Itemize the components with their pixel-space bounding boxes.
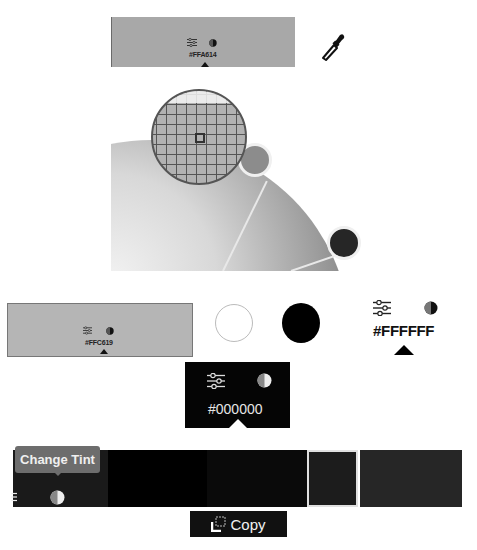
top-swatch-caret-icon xyxy=(201,62,209,67)
top-color-swatch[interactable]: #FFA614 xyxy=(111,17,295,67)
contrast-icon[interactable] xyxy=(50,490,65,505)
popover-notch xyxy=(229,419,247,428)
sliders-icon[interactable] xyxy=(11,492,17,502)
sliders-icon[interactable] xyxy=(83,326,92,335)
tint-swatch[interactable] xyxy=(207,450,307,507)
top-swatch-hex: #FFA614 xyxy=(189,51,216,58)
loupe-center-pixel xyxy=(195,133,205,143)
eyedropper-icon[interactable] xyxy=(320,32,346,62)
tint-swatch[interactable] xyxy=(108,450,208,507)
lower-swatch-caret-icon xyxy=(100,349,108,354)
lower-color-swatch[interactable]: #FFC619 xyxy=(7,303,193,357)
copy-button-label: Copy xyxy=(230,516,265,533)
text-color-hex: #FFFFFF xyxy=(373,322,434,339)
sliders-icon[interactable] xyxy=(373,300,391,316)
lower-swatch-hex: #FFC619 xyxy=(85,339,113,346)
contrast-option-white[interactable] xyxy=(215,304,253,342)
contrast-icon[interactable] xyxy=(209,39,217,47)
sliders-icon[interactable] xyxy=(207,373,225,389)
black-color-popover[interactable]: #000000 xyxy=(185,362,290,428)
contrast-option-black[interactable] xyxy=(282,303,320,343)
text-color-caret-icon xyxy=(394,345,414,355)
magnifier-loupe xyxy=(151,89,247,185)
text-color-control[interactable]: #FFFFFF xyxy=(373,298,463,358)
change-tint-tooltip: Change Tint xyxy=(15,446,100,473)
color-wheel[interactable] xyxy=(111,80,363,271)
tooltip-notch xyxy=(54,472,62,476)
contrast-icon[interactable] xyxy=(106,327,114,335)
wheel-handle-secondary[interactable] xyxy=(327,226,361,260)
black-popover-hex: #000000 xyxy=(208,401,263,417)
tint-swatch-selected[interactable] xyxy=(307,450,359,507)
copy-icon xyxy=(211,516,227,532)
copy-button[interactable]: Copy xyxy=(190,511,287,537)
sliders-icon[interactable] xyxy=(187,38,197,47)
contrast-icon[interactable] xyxy=(424,301,438,315)
tint-swatch[interactable] xyxy=(360,450,462,507)
contrast-icon[interactable] xyxy=(257,373,272,388)
